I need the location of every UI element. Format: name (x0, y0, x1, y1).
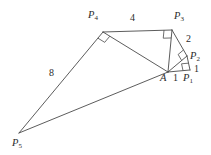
point-label-P1-subscript: 1 (189, 77, 193, 85)
right-angle-at-P2 (178, 50, 183, 61)
right-angle-at-P3 (163, 30, 171, 38)
edge-P3-P4 (103, 30, 172, 32)
length-A-P1: 1 (173, 73, 178, 83)
point-label-P2-subscript: 2 (196, 55, 200, 63)
geometry-diagram: AP1P2P3P4P5 11248 (0, 0, 211, 155)
length-P4-P5: 8 (49, 68, 54, 78)
point-label-P5: P5 (12, 138, 22, 150)
point-label-P4-subscript: 4 (94, 14, 98, 22)
point-label-P2: P2 (190, 51, 200, 63)
edge-A-P3 (168, 30, 172, 72)
length-P1-P2: 1 (194, 64, 199, 74)
edge-A-P2 (168, 56, 187, 72)
edge-P4-P5 (19, 32, 103, 133)
edge-P2-P3 (172, 30, 187, 56)
right-angle-at-P4 (98, 36, 110, 42)
point-label-P3: P3 (174, 11, 184, 23)
point-label-P1: P1 (183, 73, 193, 85)
length-P2-P3: 2 (186, 34, 191, 44)
point-label-P5-subscript: 5 (18, 142, 22, 150)
point-label-P3-subscript: 3 (180, 15, 184, 23)
edge-A-P5 (19, 72, 168, 133)
right-angle-marks-group (98, 30, 189, 70)
diagram-canvas (0, 0, 211, 155)
right-angle-at-P1 (182, 63, 189, 70)
edge-A-P4 (103, 32, 168, 72)
point-label-A: A (160, 73, 166, 84)
point-label-A-text: A (160, 72, 166, 83)
length-P3-P4: 4 (130, 13, 135, 23)
point-label-P4: P4 (88, 10, 98, 22)
